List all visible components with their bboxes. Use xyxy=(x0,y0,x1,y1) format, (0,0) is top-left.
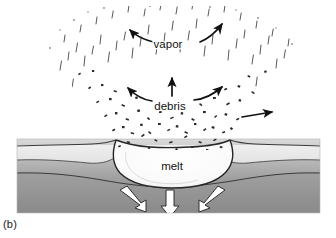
debris-arrow-right xyxy=(194,87,222,100)
ground-stratigraphy xyxy=(17,139,320,217)
ejecta-plume xyxy=(27,3,313,152)
label-vapor: vapor xyxy=(154,38,183,50)
figure-caption: (b) xyxy=(3,218,17,230)
diagram-canvas: vapor debris melt xyxy=(0,0,336,238)
debris-arrow-left xyxy=(128,88,152,101)
vapor-arrow-right xyxy=(200,24,222,42)
ejecta-arrow-right-lower xyxy=(242,112,272,117)
label-debris: debris xyxy=(154,100,186,112)
impact-crater-figure: vapor debris melt (b) xyxy=(0,0,336,238)
label-melt: melt xyxy=(161,160,184,172)
dust-speck-field xyxy=(27,4,313,143)
